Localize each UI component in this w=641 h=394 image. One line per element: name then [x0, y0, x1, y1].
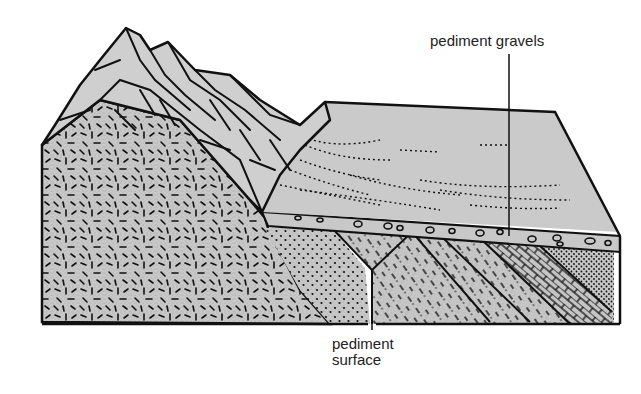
pediment-gravels-label: pediment gravels — [430, 33, 544, 49]
pediment-surface-label-line2: surface — [332, 352, 394, 368]
pediment-block-diagram: pediment gravels pediment surface — [0, 0, 641, 394]
pediment-surface-label: pediment surface — [332, 336, 394, 368]
pediment-surface-label-line1: pediment — [332, 336, 394, 352]
